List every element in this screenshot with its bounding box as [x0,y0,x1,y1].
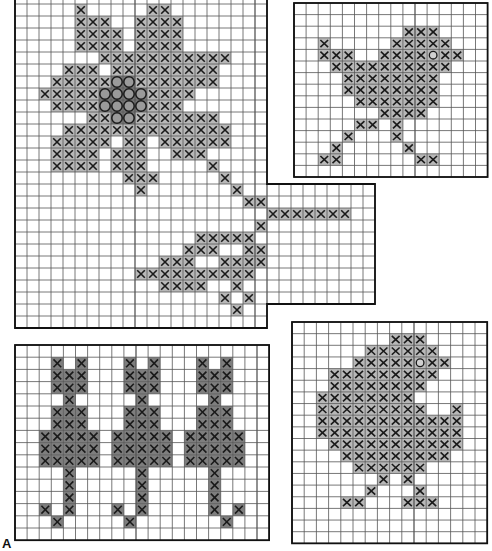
cross-stitch-chart [0,0,492,551]
figure-label: A [2,536,11,551]
bird-chart [294,3,488,177]
chick-chart [292,322,487,543]
cats-chart [15,345,269,540]
